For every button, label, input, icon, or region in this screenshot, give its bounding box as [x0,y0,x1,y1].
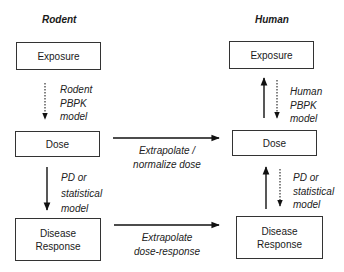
human-pbpk-label: Human PBPK model [290,85,322,126]
human-pd-label: PD or statistical model [293,171,334,212]
dose-extrapolation-label: Extrapolate / normalize dose [117,144,217,171]
rodent-pbpk-label: Rodent PBPK model [60,83,92,124]
rodent-pd-label: PD or statistical model [61,170,102,217]
response-extrapolation-label: Extrapolate dose-response [117,231,217,258]
